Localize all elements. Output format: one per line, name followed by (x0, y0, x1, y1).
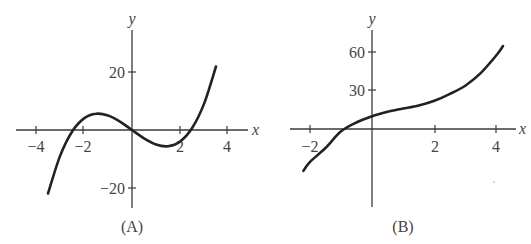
x-tick-label-b: 4 (492, 138, 500, 155)
x-axis-label-a: x (251, 121, 259, 138)
x-tick-label-a: 4 (223, 138, 231, 155)
figure: −4 −2 2 4 20 −20 x y (A) −2 2 4 60 30 x … (0, 0, 531, 244)
y-axis-label-b: y (366, 10, 376, 28)
caption-b: (B) (392, 218, 413, 236)
y-axis-label-a: y (126, 10, 136, 28)
y-tick-label-b: 60 (349, 44, 365, 61)
x-tick-label-b: −2 (301, 138, 318, 155)
y-tick-label-a: 20 (109, 64, 125, 81)
x-tick-label-b: 2 (431, 138, 439, 155)
caption-a: (A) (121, 218, 143, 236)
x-tick-label-a: −2 (74, 138, 91, 155)
panel-b: −2 2 4 60 30 x y (B) (290, 10, 526, 236)
x-axis-label-b: x (518, 120, 526, 137)
speck (493, 181, 495, 183)
curve-b (303, 46, 503, 171)
x-tick-label-a: −4 (27, 138, 44, 155)
y-tick-label-b: 30 (349, 82, 365, 99)
panel-a: −4 −2 2 4 20 −20 x y (A) (16, 10, 259, 236)
y-tick-label-a: −20 (100, 180, 125, 197)
